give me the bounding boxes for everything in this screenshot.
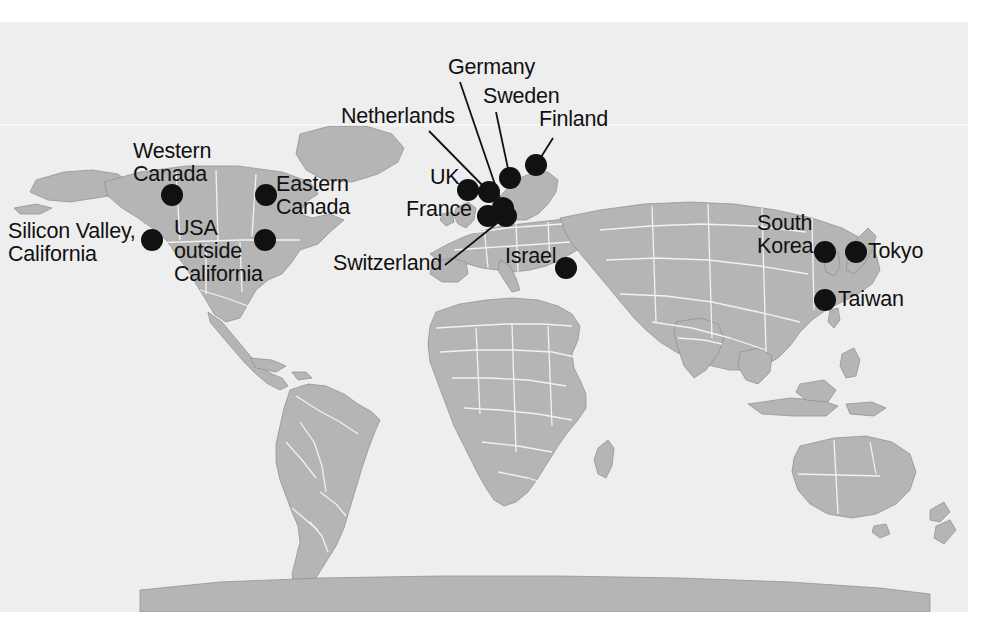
label-usa-outside-california: USA outside California (174, 217, 263, 286)
label-switzerland: Switzerland (333, 252, 442, 275)
label-western-canada: Western Canada (133, 140, 211, 186)
label-silicon-valley: Silicon Valley, California (8, 220, 136, 266)
label-taiwan: Taiwan (838, 288, 904, 311)
label-germany: Germany (448, 56, 535, 79)
label-france: France (406, 198, 472, 221)
label-uk: UK (430, 166, 459, 189)
label-netherlands: Netherlands (341, 105, 455, 128)
label-israel: Israel (505, 245, 556, 268)
label-sweden: Sweden (483, 85, 560, 108)
map-figure-container: Western Canada Eastern Canada Silicon Va… (0, 0, 981, 627)
label-south-korea: South Korea (757, 212, 813, 258)
label-eastern-canada: Eastern Canada (276, 173, 350, 219)
label-tokyo: Tokyo (868, 240, 923, 263)
world-map-graphic (0, 22, 968, 612)
world-map-panel (0, 22, 968, 612)
label-finland: Finland (539, 108, 608, 131)
